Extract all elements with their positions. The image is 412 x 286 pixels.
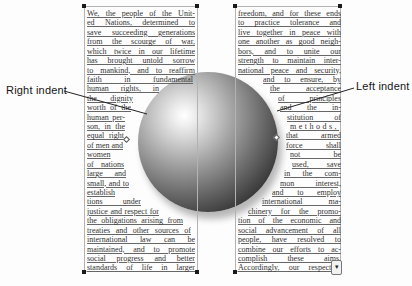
text-line: of men and (87, 141, 123, 150)
text-line: equal right (87, 131, 124, 140)
text-line: international law can be (87, 235, 195, 244)
text-line: one another as good neigh- (238, 37, 341, 46)
text-line: to mankind, and to reaffirm (87, 66, 195, 75)
text-line: social progress and better (87, 254, 195, 263)
text-line: women and (87, 150, 124, 159)
text-line: complish these aims. (238, 254, 341, 263)
text-line: worth of the (87, 103, 131, 112)
text-line: and to employ (272, 188, 341, 197)
text-line: which twice in our lifetime (87, 47, 195, 56)
selection-handle[interactable] (195, 4, 199, 8)
text-line: establish condi- (87, 188, 133, 197)
text-line: the obligations arising from (87, 216, 183, 225)
text-line: mon interest, (280, 179, 341, 188)
text-column-left: We, the people of the Unit-ed Nations, d… (87, 9, 195, 273)
text-line: people, have resolved to (238, 235, 341, 244)
text-line: tions under which (87, 197, 141, 206)
text-line: and the in- (280, 103, 341, 112)
text-line: and to ensure, by (263, 75, 341, 84)
text-line: has brought untold sorrow (87, 56, 195, 65)
text-line: international ma- (262, 197, 341, 206)
text-line: treaties and other sources of (87, 226, 191, 235)
text-line: not be (290, 150, 341, 159)
text-line: of principles (278, 94, 341, 103)
text-line: in the com- (284, 169, 341, 178)
text-line: that armed (286, 131, 341, 140)
text-line: Accordingly, our respective (238, 263, 341, 272)
text-line: the dignity and (87, 94, 133, 103)
text-line: social advancement of all (238, 226, 341, 235)
text-line: standards of life in larger (87, 263, 195, 272)
selection-handle[interactable] (82, 270, 86, 274)
text-line: used, save (292, 160, 341, 169)
text-line: justice and respect for (87, 207, 159, 216)
selection-handle[interactable] (233, 270, 237, 274)
text-line: human per- (87, 113, 125, 122)
more-text-handle-icon[interactable]: ▾ (331, 260, 342, 275)
text-line: combine our efforts to ac- (238, 245, 341, 254)
text-line: to practice tolerance and (238, 18, 341, 27)
text-line: save succeeding generations (87, 28, 195, 37)
text-line: live together in peace with (238, 28, 341, 37)
selection-handle[interactable] (82, 4, 86, 8)
text-line: chinery for the promo- (248, 207, 341, 216)
text-line: tion of the economic and (238, 216, 341, 225)
text-line: small, and to (87, 179, 129, 188)
text-line: ed Nations, determined to (87, 18, 195, 27)
text-line: bors, and to unite our (238, 47, 341, 56)
text-line: We, the people of the Unit- (87, 9, 195, 18)
right-indent-label: Right indent (6, 84, 67, 96)
text-line: son, in the (87, 122, 125, 131)
text-line: freedom, and for these ends (238, 9, 341, 18)
text-line: force shall (286, 141, 341, 150)
text-line: the acceptance (270, 84, 341, 93)
left-indent-label: Left indent (356, 80, 410, 92)
text-line: strength to maintain inter- (238, 56, 341, 65)
text-line: methods, (290, 122, 341, 131)
text-line: from the scourge of war, (87, 37, 195, 46)
text-line: large and (87, 169, 126, 178)
text-line: stitution of (287, 113, 341, 122)
text-column-right: freedom, and for these endsto practice t… (238, 9, 341, 273)
selection-handle[interactable] (195, 270, 199, 274)
selection-handle[interactable] (233, 4, 237, 8)
text-line: national peace and security, (238, 66, 341, 75)
text-line: faith in fundamental (87, 75, 193, 84)
selection-handle[interactable] (338, 4, 342, 8)
text-line: of nations (87, 160, 124, 169)
text-line: maintained, and to promote (87, 245, 195, 254)
text-line: human rights, in (87, 84, 159, 93)
